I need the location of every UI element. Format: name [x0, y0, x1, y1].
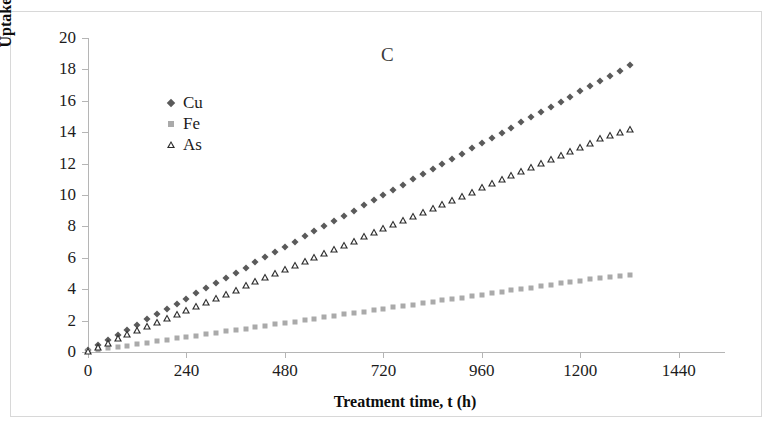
data-point — [596, 135, 604, 142]
data-point — [222, 290, 230, 297]
data-point — [114, 335, 122, 342]
data-point — [251, 278, 259, 285]
data-point — [438, 200, 446, 207]
data-point — [232, 286, 240, 293]
data-point — [360, 233, 368, 240]
data-point — [586, 139, 594, 146]
data-point — [301, 257, 309, 264]
data-point — [173, 311, 181, 318]
data-point — [350, 237, 358, 244]
data-point — [320, 249, 328, 256]
data-point — [104, 339, 112, 346]
data-point — [379, 225, 387, 232]
series-as — [0, 0, 779, 433]
data-point — [182, 306, 190, 313]
data-point — [507, 172, 515, 179]
data-point — [389, 221, 397, 228]
data-point — [429, 204, 437, 211]
data-point — [468, 188, 476, 195]
data-point — [242, 282, 250, 289]
data-point — [202, 298, 210, 305]
data-point — [153, 319, 161, 326]
data-point — [340, 241, 348, 248]
data-point — [271, 270, 279, 277]
data-point — [606, 132, 614, 139]
data-point — [448, 196, 456, 203]
data-point — [616, 128, 624, 135]
data-point — [557, 151, 565, 158]
data-point — [192, 302, 200, 309]
data-point — [163, 315, 171, 322]
data-point — [478, 184, 486, 191]
data-point — [212, 294, 220, 301]
data-point — [330, 245, 338, 252]
data-point — [576, 143, 584, 150]
data-point — [84, 347, 92, 354]
data-point — [310, 253, 318, 260]
data-point — [547, 155, 555, 162]
data-point — [370, 229, 378, 236]
data-point — [409, 213, 417, 220]
data-point — [399, 217, 407, 224]
data-point — [123, 331, 131, 338]
data-point — [458, 192, 466, 199]
data-point — [488, 180, 496, 187]
figure-container: C Uptake, q (mg g-1) Treatment time, t (… — [0, 0, 779, 433]
data-point — [498, 176, 506, 183]
data-point — [261, 274, 269, 281]
data-point — [281, 266, 289, 273]
data-point — [291, 262, 299, 269]
data-point — [143, 323, 151, 330]
data-point — [626, 126, 634, 133]
data-point — [419, 208, 427, 215]
data-point — [537, 159, 545, 166]
data-point — [133, 327, 141, 334]
data-point — [566, 147, 574, 154]
data-point — [517, 168, 525, 175]
data-point — [94, 343, 102, 350]
data-point — [527, 164, 535, 171]
